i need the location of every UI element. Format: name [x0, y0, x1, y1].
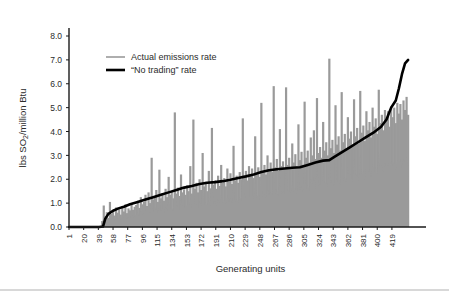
x-tick-label: 229: [241, 233, 250, 247]
x-tick-label: 419: [388, 233, 397, 247]
x-tick-label: 400: [373, 233, 382, 247]
x-tick-label: 58: [109, 233, 118, 242]
svg-text:lbs SO2/million Btu: lbs SO2/million Btu: [17, 89, 29, 168]
x-axis-title: Generating units: [216, 263, 286, 274]
legend: Actual emissions rate“No trading” rate: [106, 52, 217, 75]
x-tick-label: 286: [285, 233, 294, 247]
y-tick-label: 2.0: [50, 174, 62, 184]
y-tick-label: 4.0: [50, 127, 62, 137]
x-tick-label: 381: [359, 233, 368, 247]
x-tick-label: 362: [344, 233, 353, 247]
x-tick-label: 305: [300, 233, 309, 247]
x-tick-label: 191: [212, 233, 221, 247]
x-tick-label: 20: [80, 233, 89, 242]
footer-rule: [0, 289, 449, 291]
x-tick-label: 39: [95, 233, 104, 242]
x-tick-label: 115: [153, 233, 162, 246]
y-tick-label: 5.0: [50, 103, 62, 113]
y-tick-label: 1.0: [50, 198, 62, 208]
x-tick-label: 134: [168, 233, 177, 247]
y-axis-title: lbs SO2/million Btu: [17, 89, 29, 168]
x-tick-label: 324: [315, 233, 324, 247]
x-tick-label: 153: [183, 233, 192, 247]
y-tick-label: 8.0: [50, 31, 62, 41]
x-tick-label: 96: [139, 233, 148, 242]
x-tick-label: 1: [65, 233, 74, 238]
emissions-chart: 0.01.02.03.04.05.06.07.08.01203958779611…: [0, 0, 449, 300]
figure-container: 0.01.02.03.04.05.06.07.08.01203958779611…: [0, 0, 449, 300]
legend-label-no-trading: “No trading” rate: [131, 65, 197, 75]
x-tick-label: 267: [271, 233, 280, 247]
y-tick-label: 0.0: [50, 222, 62, 232]
y-tick-label: 7.0: [50, 55, 62, 65]
y-tick-label: 3.0: [50, 151, 62, 161]
x-tick-label: 210: [227, 233, 236, 247]
y-tick-label: 6.0: [50, 79, 62, 89]
x-tick-label: 343: [329, 233, 338, 247]
legend-label-actual: Actual emissions rate: [131, 52, 217, 62]
x-tick-label: 172: [197, 233, 206, 247]
x-tick-label: 77: [124, 233, 133, 242]
bars-group: [101, 59, 409, 227]
x-tick-label: 248: [256, 233, 265, 247]
